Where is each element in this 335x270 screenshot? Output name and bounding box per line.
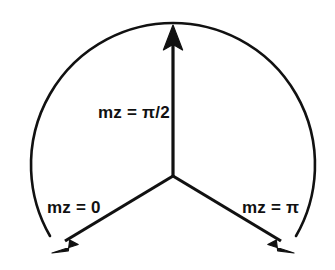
vector-diagram-graphic xyxy=(0,0,335,270)
label-mz-pi-over-2: mz = π/2 xyxy=(98,104,170,121)
arrowhead-lower-left xyxy=(52,240,78,253)
diagram-canvas: mz = π/2 mz = 0 mz = π xyxy=(0,0,335,270)
label-mz-zero: mz = 0 xyxy=(47,199,101,216)
label-mz-pi: mz = π xyxy=(242,199,299,216)
arrowhead-lower-right xyxy=(268,240,294,253)
